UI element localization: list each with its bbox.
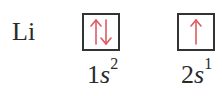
subshell-letter: s	[194, 60, 204, 89]
principal-number: 2	[181, 60, 194, 89]
orbital-label-1s: 1s2	[87, 60, 118, 90]
spin-up-arrow-icon	[179, 15, 213, 49]
orbital-box-2s	[177, 13, 215, 51]
electron-count: 1	[204, 55, 212, 72]
element-symbol: Li	[12, 17, 35, 47]
subshell-letter: s	[100, 60, 110, 89]
orbital-label-2s: 2s1	[181, 60, 212, 90]
spin-up-down-arrows-icon	[84, 15, 118, 49]
principal-number: 1	[87, 60, 100, 89]
electron-count: 2	[110, 55, 118, 72]
orbital-box-1s	[82, 13, 120, 51]
